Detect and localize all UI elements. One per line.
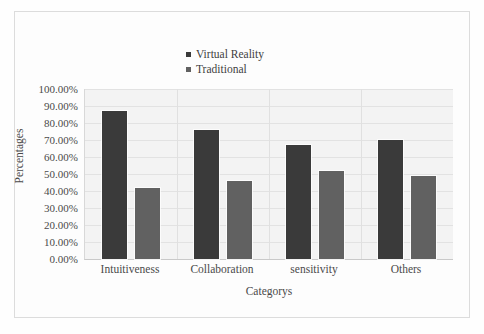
x-axis-tick-labels: IntuitivenessCollaborationsensitivityOth…	[84, 263, 452, 275]
x-axis-tick-label: sensitivity	[268, 263, 360, 275]
y-axis-tick-label: 100.00%	[16, 84, 78, 95]
chart-figure: Virtual Reality Traditional Percentages …	[0, 0, 484, 334]
legend-label: Traditional	[196, 63, 247, 75]
legend-swatch-icon	[186, 67, 191, 72]
bar-group	[361, 89, 453, 259]
x-axis-title: Categorys	[84, 285, 454, 297]
bar-groups	[85, 89, 453, 259]
y-axis-tick-label: 0.00%	[16, 254, 78, 265]
legend-item-virtual-reality[interactable]: Virtual Reality	[186, 47, 356, 61]
x-axis-tick-label: Others	[360, 263, 452, 275]
y-axis-tick-label: 80.00%	[16, 118, 78, 129]
x-axis-tick-label: Collaboration	[176, 263, 268, 275]
bar[interactable]	[227, 181, 252, 259]
y-axis-tick-labels: 100.00%90.00%80.00%70.00%60.00%50.00%40.…	[14, 89, 78, 259]
bar[interactable]	[286, 145, 311, 259]
bar[interactable]	[378, 140, 403, 259]
y-axis-tick-label: 30.00%	[16, 203, 78, 214]
legend-label: Virtual Reality	[196, 48, 264, 60]
legend-item-traditional[interactable]: Traditional	[186, 62, 356, 76]
chart-legend: Virtual Reality Traditional	[186, 47, 356, 77]
x-axis-tick-label: Intuitiveness	[84, 263, 176, 275]
y-axis-tick-label: 50.00%	[16, 169, 78, 180]
bar[interactable]	[194, 130, 219, 259]
bar[interactable]	[102, 111, 127, 259]
plot-area	[84, 89, 453, 260]
y-axis-tick-label: 20.00%	[16, 220, 78, 231]
bar-group	[177, 89, 269, 259]
y-axis-tick-label: 90.00%	[16, 101, 78, 112]
bar[interactable]	[411, 176, 436, 259]
bar-group	[269, 89, 361, 259]
legend-swatch-icon	[186, 52, 191, 57]
bar[interactable]	[135, 188, 160, 259]
bar[interactable]	[319, 171, 344, 259]
y-axis-tick-label: 60.00%	[16, 152, 78, 163]
y-axis-tick-label: 40.00%	[16, 186, 78, 197]
y-axis-tick-label: 10.00%	[16, 237, 78, 248]
y-axis-tick-label: 70.00%	[16, 135, 78, 146]
bar-group	[85, 89, 177, 259]
